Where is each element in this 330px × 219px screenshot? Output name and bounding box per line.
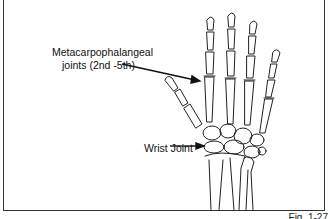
figure-caption: Fig. 1-27 [289, 212, 328, 219]
hand-skeleton-illustration [0, 0, 330, 219]
arrowhead-icon [191, 76, 200, 83]
arrowhead-icon [196, 143, 204, 149]
carpal-bones [203, 124, 266, 158]
forearm-bones [205, 153, 254, 210]
thumb-bones [165, 76, 202, 128]
little-finger-bones [260, 50, 280, 133]
mcp-label-line2: joints (2nd -5th) [62, 59, 135, 71]
ring-finger-bones [245, 21, 257, 125]
mcp-joints [204, 76, 274, 98]
index-finger-bones [205, 17, 214, 122]
wrist-joint-label: Wrist Joint [144, 142, 193, 154]
mcp-label-line1: Metacarpophalangeal [52, 46, 153, 58]
middle-finger-bones [226, 13, 235, 124]
